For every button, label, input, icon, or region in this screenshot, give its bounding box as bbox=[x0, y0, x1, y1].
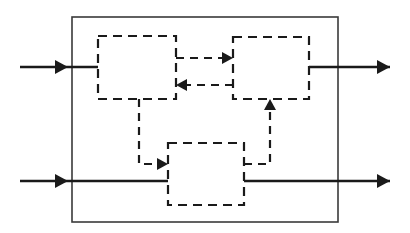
link-bottom-to-topright-arrow bbox=[244, 99, 276, 164]
link-topright-to-topleft-arrow bbox=[176, 79, 233, 91]
input-top-arrow bbox=[20, 60, 98, 74]
link-topleft-to-topright-arrow bbox=[176, 52, 233, 64]
link-topleft-to-bottom-arrowhead bbox=[157, 158, 168, 170]
link-topleft-to-topright-arrowhead bbox=[222, 52, 233, 64]
link-topleft-to-bottom-arrow bbox=[139, 99, 168, 170]
link-topleft-to-bottom-path bbox=[139, 99, 159, 164]
block-bottom-center-rect[interactable] bbox=[168, 143, 244, 205]
input-top-arrowhead bbox=[55, 60, 68, 74]
link-topright-to-topleft-arrowhead bbox=[176, 79, 187, 91]
output-bottom-arrow bbox=[244, 174, 390, 188]
link-bottom-to-topright-path bbox=[244, 108, 270, 164]
link-bottom-to-topright-arrowhead bbox=[264, 99, 276, 110]
output-top-arrowhead bbox=[377, 60, 390, 74]
block-diagram-figure bbox=[0, 0, 410, 233]
block-top-right-rect[interactable] bbox=[233, 37, 309, 99]
input-bottom-arrowhead bbox=[55, 174, 68, 188]
input-bottom-arrow bbox=[20, 174, 168, 188]
block-top-left-rect[interactable] bbox=[98, 36, 176, 99]
diagram-canvas bbox=[0, 0, 410, 233]
system-boundary-rect bbox=[72, 17, 338, 222]
output-bottom-arrowhead bbox=[377, 174, 390, 188]
output-top-arrow bbox=[309, 60, 390, 74]
